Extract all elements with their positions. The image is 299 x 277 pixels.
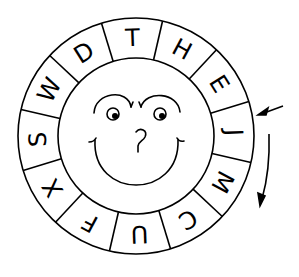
ring-letter-f: F <box>77 207 102 238</box>
rotation-arrowhead-icon <box>258 193 265 206</box>
brow-tick-right <box>139 102 141 107</box>
smile <box>95 140 178 185</box>
ring-letter-u: U <box>130 220 149 249</box>
ring-letter-e: E <box>203 70 235 98</box>
ring-letter-h: H <box>167 33 196 66</box>
ring-letter-t: T <box>124 24 141 53</box>
segment-divider <box>189 50 216 79</box>
segment-divider <box>109 212 118 251</box>
cipher-wheel-diagram: THEJMCUFXSWD <box>0 0 299 277</box>
outer-ring <box>18 18 254 254</box>
segment-divider <box>102 23 114 61</box>
segment-divider <box>212 154 251 163</box>
segment-divider <box>211 102 249 114</box>
ring-letter-j: J <box>220 127 248 137</box>
segment-divider <box>159 211 171 249</box>
pointer-arrowhead-icon <box>258 108 268 115</box>
face <box>89 95 184 185</box>
segment-divider <box>56 193 83 222</box>
segment-divider <box>23 159 61 171</box>
question-nose <box>136 130 146 152</box>
ring-letter-d: D <box>69 36 100 70</box>
segment-divider <box>193 189 222 216</box>
segment-dividers <box>21 21 251 251</box>
wheel-rings <box>18 18 254 254</box>
segment-divider <box>154 21 163 60</box>
segment-divider <box>21 109 60 118</box>
ring-letter-x: X <box>37 174 69 203</box>
rotation-arrow <box>258 134 269 206</box>
right-eyebrow <box>141 96 180 112</box>
ring-letter-c: C <box>173 203 202 236</box>
left-pupil <box>112 113 118 119</box>
ring-letter-s: S <box>24 131 53 147</box>
left-eyebrow <box>94 95 131 113</box>
arrows <box>258 106 283 206</box>
ring-letter-w: W <box>32 73 68 107</box>
segment-divider <box>50 56 79 83</box>
inner-ring <box>58 58 214 214</box>
pointer-arrow <box>258 106 283 115</box>
ring-letter-m: M <box>205 166 239 197</box>
brow-tick-left <box>131 102 133 107</box>
right-pupil <box>159 113 165 119</box>
